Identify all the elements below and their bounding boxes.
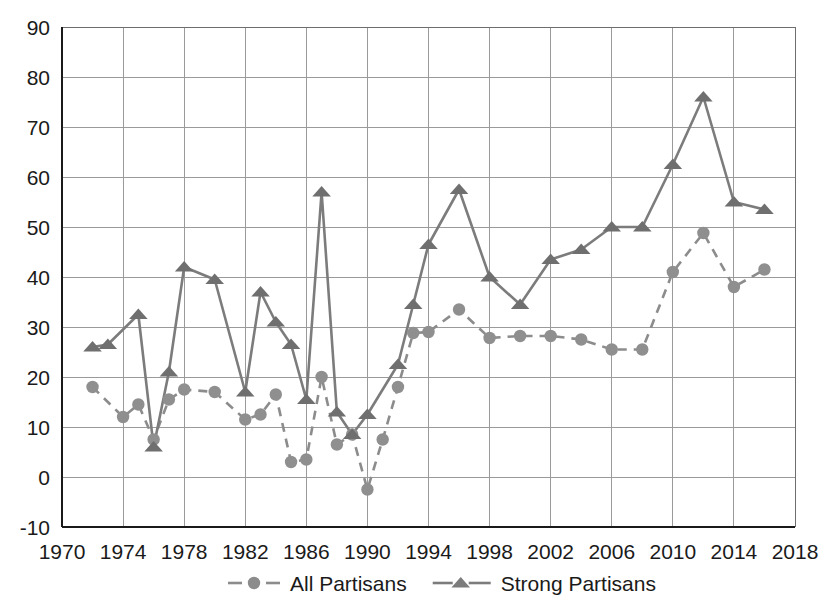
data-point-all-partisans: [453, 303, 465, 315]
data-point-strong-partisans: [282, 339, 301, 350]
y-tick-label: 20: [27, 366, 50, 389]
data-point-strong-partisans: [297, 394, 316, 405]
data-point-all-partisans: [514, 330, 526, 342]
legend-label: Strong Partisans: [501, 572, 656, 595]
data-point-all-partisans: [254, 408, 266, 420]
legend-item-strong-partisans[interactable]: Strong Partisans: [433, 572, 656, 595]
data-point-all-partisans: [331, 438, 343, 450]
x-tick-label: 1986: [283, 540, 330, 563]
data-point-all-partisans: [728, 281, 740, 293]
y-tick-label: 50: [27, 216, 50, 239]
y-tick-label: 30: [27, 316, 50, 339]
chart-legend: All PartisansStrong Partisans: [228, 572, 656, 595]
y-tick-label: 10: [27, 416, 50, 439]
data-point-strong-partisans: [144, 441, 163, 452]
data-point-all-partisans: [376, 433, 388, 445]
data-point-strong-partisans: [358, 409, 377, 420]
x-tick-label: 1994: [405, 540, 452, 563]
legend-marker-triangle: [451, 577, 470, 588]
data-point-strong-partisans: [328, 406, 347, 417]
data-point-strong-partisans: [129, 309, 148, 320]
line-chart: -100102030405060708090 19701974197819821…: [0, 0, 835, 610]
data-point-strong-partisans: [419, 239, 438, 250]
data-point-strong-partisans: [251, 286, 270, 297]
chart-container: -100102030405060708090 19701974197819821…: [0, 0, 835, 610]
data-point-all-partisans: [86, 381, 98, 393]
data-point-strong-partisans: [175, 261, 194, 272]
x-tick-label: 2006: [588, 540, 635, 563]
x-tick-label: 2010: [649, 540, 696, 563]
data-point-all-partisans: [239, 413, 251, 425]
data-point-all-partisans: [667, 266, 679, 278]
data-point-strong-partisans: [404, 299, 423, 310]
x-tick-label: 1990: [344, 540, 391, 563]
x-tick-label: 1974: [100, 540, 147, 563]
legend-label: All Partisans: [290, 572, 407, 595]
data-point-all-partisans: [575, 333, 587, 345]
legend-marker-circle: [248, 577, 260, 589]
data-point-strong-partisans: [267, 316, 286, 327]
data-point-all-partisans: [544, 330, 556, 342]
x-tick-label: 2002: [527, 540, 574, 563]
data-point-strong-partisans: [450, 184, 469, 195]
y-tick-label: 70: [27, 116, 50, 139]
data-point-strong-partisans: [160, 366, 179, 377]
y-tick-label: -10: [20, 516, 50, 539]
data-point-strong-partisans: [236, 386, 255, 397]
gridlines: [62, 27, 795, 527]
x-tick-label: 1978: [161, 540, 208, 563]
data-point-all-partisans: [392, 381, 404, 393]
data-point-all-partisans: [300, 453, 312, 465]
data-point-all-partisans: [270, 388, 282, 400]
x-tick-label: 2014: [711, 540, 758, 563]
data-point-all-partisans: [483, 332, 495, 344]
data-point-strong-partisans: [343, 429, 362, 440]
data-point-strong-partisans: [99, 339, 118, 350]
data-point-strong-partisans: [725, 196, 744, 207]
x-tick-label: 1970: [39, 540, 86, 563]
data-point-all-partisans: [132, 398, 144, 410]
data-point-all-partisans: [117, 411, 129, 423]
data-point-strong-partisans: [480, 271, 499, 282]
data-point-all-partisans: [758, 263, 770, 275]
y-axis-tick-labels: -100102030405060708090: [20, 16, 50, 539]
x-axis-tick-labels: 1970197419781982198619901994199820022006…: [39, 540, 819, 563]
data-point-strong-partisans: [312, 186, 331, 197]
data-point-all-partisans: [209, 386, 221, 398]
data-point-strong-partisans: [205, 274, 224, 285]
data-point-all-partisans: [285, 456, 297, 468]
data-point-strong-partisans: [694, 91, 713, 102]
data-point-strong-partisans: [541, 254, 560, 265]
data-point-all-partisans: [315, 371, 327, 383]
x-tick-label: 1998: [466, 540, 513, 563]
data-point-strong-partisans: [664, 159, 683, 170]
y-tick-label: 90: [27, 16, 50, 39]
data-point-all-partisans: [178, 383, 190, 395]
y-tick-label: 0: [38, 466, 50, 489]
data-point-all-partisans: [407, 327, 419, 339]
data-point-all-partisans: [606, 343, 618, 355]
x-tick-label: 2018: [772, 540, 819, 563]
legend-item-all-partisans[interactable]: All Partisans: [228, 572, 407, 595]
x-tick-label: 1982: [222, 540, 269, 563]
y-tick-label: 80: [27, 66, 50, 89]
data-point-all-partisans: [422, 326, 434, 338]
data-point-all-partisans: [163, 393, 175, 405]
y-tick-label: 40: [27, 266, 50, 289]
y-tick-label: 60: [27, 166, 50, 189]
data-point-all-partisans: [636, 343, 648, 355]
data-point-all-partisans: [697, 227, 709, 239]
data-point-all-partisans: [361, 483, 373, 495]
